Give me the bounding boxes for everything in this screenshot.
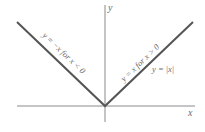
absolute-value-graph: y x y = −x for x < 0 y = x for x > 0 y =… xyxy=(0,0,205,132)
function-label: y = |x| xyxy=(151,64,174,74)
x-axis-label: x xyxy=(187,107,193,118)
y-axis-label: y xyxy=(107,2,113,13)
left-branch-label: y = −x for x < 0 xyxy=(40,30,88,77)
right-branch-label: y = x for x > 0 xyxy=(118,41,162,84)
